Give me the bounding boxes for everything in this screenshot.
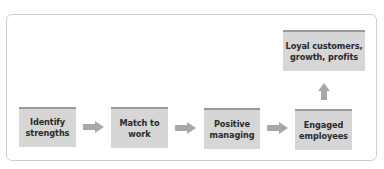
step-label-line: managing: [210, 130, 255, 141]
arrow-right-icon: [175, 122, 196, 134]
arrow-up-icon: [318, 83, 330, 100]
step-match-to-work: Match to work: [111, 107, 168, 148]
step-label-line: Match to: [120, 118, 160, 129]
step-label-line: employees: [299, 131, 348, 142]
step-identify-strengths: Identify strengths: [19, 107, 76, 147]
outcome-label-line: growth, profits: [286, 52, 363, 63]
outcome-label-line: Loyal customers,: [286, 41, 363, 52]
step-label-line: work: [120, 129, 160, 140]
arrow-right-icon: [267, 122, 288, 134]
step-engaged-employees: Engaged employees: [295, 109, 352, 150]
outcome-loyal-customers-growth-profits: Loyal customers, growth, profits: [283, 30, 365, 71]
step-label-line: Identify: [26, 117, 70, 128]
step-positive-managing: Positive managing: [204, 108, 260, 149]
step-label-line: Positive: [210, 119, 255, 130]
arrow-right-icon: [83, 121, 104, 133]
step-label-line: Engaged: [299, 120, 348, 131]
step-label-line: strengths: [26, 128, 70, 139]
